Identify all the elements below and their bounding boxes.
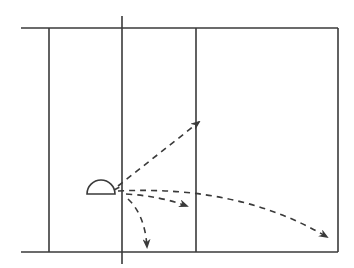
trajectories — [114, 122, 327, 247]
trajectory-up-right — [118, 122, 199, 186]
trajectory-origin-stub — [114, 187, 120, 190]
player-marker — [87, 180, 115, 194]
court-diagram — [0, 0, 354, 268]
diagram-canvas — [0, 0, 354, 268]
trajectory-long-arc — [118, 190, 327, 237]
court-lines — [21, 16, 338, 264]
trajectory-down — [128, 199, 147, 247]
trajectory-mid-right — [126, 194, 187, 206]
semicircle-marker — [87, 180, 115, 194]
